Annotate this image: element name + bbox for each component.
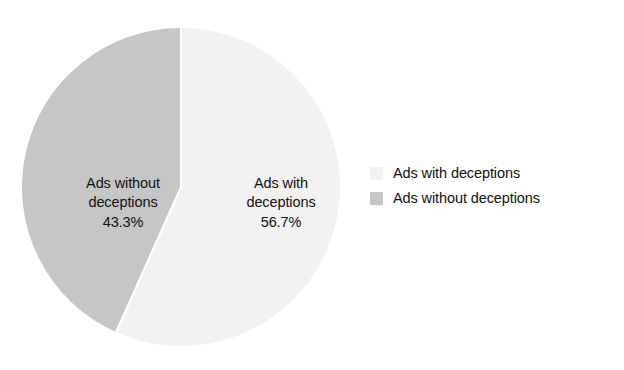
legend-swatch-icon [370,167,383,180]
slice-label-line1: Ads without [86,175,160,191]
legend-swatch-icon [370,192,383,205]
slice-label-ads-without-deceptions: Ads without deceptions 43.3% [55,174,191,232]
legend-item-label: Ads with deceptions [393,166,520,181]
slice-label-line1: Ads with [254,175,308,191]
slice-label-line2: deceptions [246,194,315,210]
pie-chart: Ads without deceptions 43.3% Ads with de… [0,0,624,370]
slice-label-ads-with-deceptions: Ads with deceptions 56.7% [216,174,346,232]
legend-item-label: Ads without deceptions [393,191,540,206]
slice-label-line2: deceptions [88,194,157,210]
slice-label-percent: 43.3% [55,213,191,232]
legend-item-ads-without-deceptions[interactable]: Ads without deceptions [370,186,614,211]
legend-item-ads-with-deceptions[interactable]: Ads with deceptions [370,161,614,186]
pie-graphic: Ads without deceptions 43.3% Ads with de… [22,28,340,346]
slice-label-percent: 56.7% [216,213,346,232]
chart-legend: Ads with deceptions Ads without deceptio… [370,161,614,211]
